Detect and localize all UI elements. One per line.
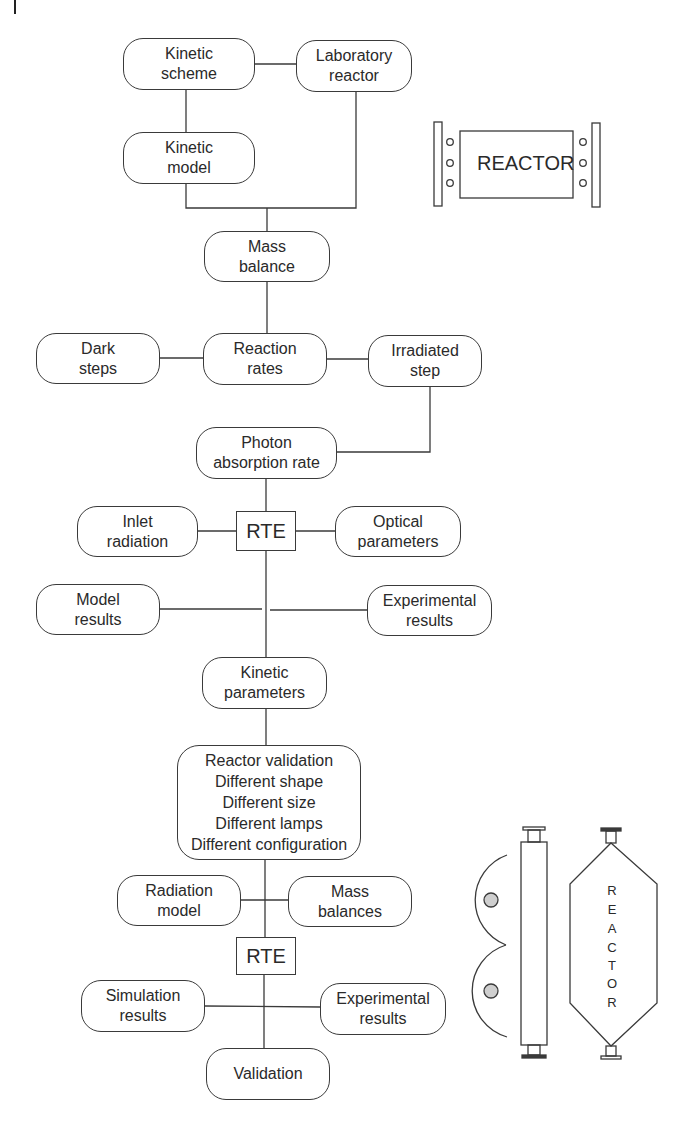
node-model-results: Model results <box>36 584 160 635</box>
node-label-line: Different configuration <box>191 834 347 855</box>
node-label-line: Different size <box>222 792 315 813</box>
node-simulation-results: Simulation results <box>81 980 205 1032</box>
tubular-reactor-illustration <box>472 827 547 1058</box>
node-rte-1: RTE <box>236 511 296 551</box>
node-label-line: Kinetic <box>165 44 213 64</box>
node-label-line: balances <box>318 902 382 922</box>
node-label-line: balance <box>239 257 295 277</box>
node-label-line: Radiation <box>145 881 213 901</box>
node-kinetic-parameters: Kinetic parameters <box>202 657 327 709</box>
node-radiation-model: Radiation model <box>117 875 241 926</box>
node-label-line: Photon <box>241 433 292 453</box>
node-label-line: Mass <box>331 882 369 902</box>
node-label-line: parameters <box>358 532 439 552</box>
node-experimental-results-1: Experimental results <box>367 585 492 636</box>
node-label-line: Irradiated <box>391 341 459 361</box>
node-label-line: absorption rate <box>213 453 320 473</box>
node-kinetic-scheme: Kinetic scheme <box>123 38 255 90</box>
node-label-line: RTE <box>246 521 286 541</box>
node-reaction-rates: Reaction rates <box>203 333 327 385</box>
node-reactor-validation: Reactor validation Different shape Diffe… <box>177 745 361 860</box>
node-label-line: steps <box>79 359 117 379</box>
node-label-line: RTE <box>246 946 286 966</box>
node-mass-balances: Mass balances <box>288 876 412 927</box>
node-label-line: Different shape <box>215 771 323 792</box>
node-label-line: results <box>359 1009 406 1029</box>
node-laboratory-reactor: Laboratory reactor <box>296 40 412 92</box>
node-inlet-radiation: Inlet radiation <box>77 506 198 557</box>
node-label-line: model <box>157 901 201 921</box>
node-mass-balance: Mass balance <box>204 231 330 282</box>
node-label-line: Kinetic <box>165 138 213 158</box>
node-experimental-results-2: Experimental results <box>320 983 446 1035</box>
node-label-line: Simulation <box>106 986 181 1006</box>
connector-lines <box>0 0 689 1133</box>
node-label-line: Model <box>76 590 120 610</box>
node-dark-steps: Dark steps <box>36 333 160 384</box>
node-kinetic-model: Kinetic model <box>123 132 255 184</box>
node-label-line: reactor <box>329 66 379 86</box>
flat-reactor-label: REACTOR <box>477 152 574 175</box>
node-label-line: Optical <box>373 512 423 532</box>
node-optical-parameters: Optical parameters <box>335 506 461 557</box>
node-rte-2: RTE <box>236 937 296 975</box>
node-label-line: Kinetic <box>240 663 288 683</box>
node-label-line: results <box>74 610 121 630</box>
node-irradiated-step: Irradiated step <box>368 335 482 387</box>
node-label-line: Inlet <box>122 512 152 532</box>
node-label-line: radiation <box>107 532 168 552</box>
node-photon-absorption-rate: Photon absorption rate <box>196 427 337 479</box>
node-label-line: Mass <box>248 237 286 257</box>
node-label-line: Validation <box>233 1064 302 1084</box>
node-label-line: step <box>410 361 440 381</box>
node-label-line: Different lamps <box>215 813 322 834</box>
node-label-line: Experimental <box>383 591 476 611</box>
node-label-line: model <box>167 158 211 178</box>
node-label-line: Reaction <box>233 339 296 359</box>
node-label-line: Reactor validation <box>205 750 333 771</box>
flowchart-canvas: REACTOR R E A C T O R Kinetic scheme Lab… <box>0 0 689 1133</box>
node-label-line: results <box>406 611 453 631</box>
node-label-line: results <box>119 1006 166 1026</box>
node-label-line: Laboratory <box>316 46 393 66</box>
node-label-line: parameters <box>224 683 305 703</box>
node-validation: Validation <box>206 1048 330 1100</box>
node-label-line: scheme <box>161 64 217 84</box>
node-label-line: rates <box>247 359 283 379</box>
node-label-line: Dark <box>81 339 115 359</box>
node-label-line: Experimental <box>336 989 429 1009</box>
